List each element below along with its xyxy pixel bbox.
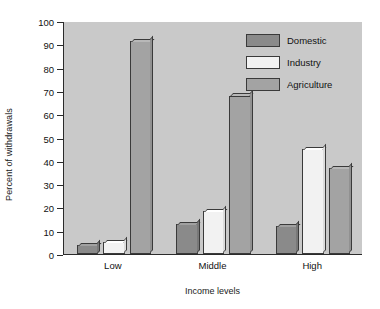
bar-industry-high <box>302 149 324 254</box>
bar-side-face <box>97 239 100 253</box>
bar-domestic-middle <box>176 224 198 254</box>
legend-label-agriculture: Agriculture <box>287 79 332 90</box>
y-axis-tick-label: 100 <box>14 17 54 28</box>
legend-label-industry: Industry <box>287 57 321 68</box>
legend-item-agriculture[interactable]: Agriculture <box>246 78 332 91</box>
bar-agriculture-middle <box>229 96 251 254</box>
y-axis-tick-label: 70 <box>14 86 54 97</box>
y-axis-tick-label: 0 <box>14 250 54 261</box>
x-axis-tick-label-high: High <box>267 260 357 271</box>
bar-domestic-high <box>276 226 298 254</box>
y-axis-tick-label: 10 <box>14 226 54 237</box>
bar-industry-low <box>103 242 125 254</box>
bar-agriculture-low <box>130 41 152 254</box>
legend: DomesticIndustryAgriculture <box>246 34 332 91</box>
bar-side-face <box>250 90 253 253</box>
y-axis-tick-label: 90 <box>14 40 54 51</box>
legend-swatch-domestic <box>246 34 280 47</box>
bar-side-face <box>223 205 226 253</box>
legend-swatch-industry <box>246 56 280 69</box>
legend-swatch-agriculture <box>246 78 280 91</box>
x-axis-title: Income levels <box>63 286 362 296</box>
bar-side-face <box>124 237 127 253</box>
y-axis-tick-label: 60 <box>14 110 54 121</box>
bar-side-face <box>197 218 200 253</box>
legend-item-industry[interactable]: Industry <box>246 56 332 69</box>
legend-item-domestic[interactable]: Domestic <box>246 34 332 47</box>
bar-side-face <box>349 162 352 253</box>
y-axis-tick-label: 20 <box>14 203 54 214</box>
y-axis-tick-mark <box>57 255 63 256</box>
bar-chart: Percent of withdrawals 01020304050607080… <box>0 0 380 309</box>
x-axis-tick-label-low: Low <box>68 260 158 271</box>
y-axis-tick-label: 80 <box>14 63 54 74</box>
x-axis-tick-label-middle: Middle <box>168 260 258 271</box>
bar-domestic-low <box>77 245 99 254</box>
y-axis-tick-label: 50 <box>14 133 54 144</box>
y-axis-tick-label: 30 <box>14 180 54 191</box>
y-axis-tick-label: 40 <box>14 156 54 167</box>
bar-industry-middle <box>203 211 225 254</box>
legend-label-domestic: Domestic <box>287 35 327 46</box>
bar-side-face <box>150 35 153 253</box>
bar-agriculture-high <box>329 168 351 254</box>
bar-side-face <box>296 220 299 253</box>
bar-side-face <box>323 144 326 253</box>
